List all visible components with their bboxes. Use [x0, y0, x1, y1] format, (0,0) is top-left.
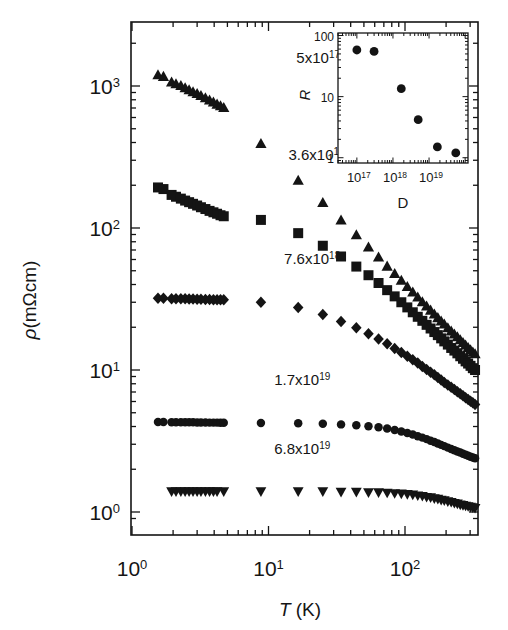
data-point	[374, 423, 382, 431]
y-tick-label-1: 101	[89, 359, 120, 382]
data-point	[293, 228, 303, 238]
data-series-5x10-17: 5x10173.6x10187.6x10181.7x10196.8x101910…	[152, 30, 480, 514]
y-tick-label-3: 103	[89, 75, 120, 98]
data-point	[364, 422, 372, 430]
inset-x-tick-label-2: 1019	[419, 170, 443, 185]
x-axis-title: T (K)5x10173.6x10187.6x10181.7x10196.8x1…	[152, 30, 480, 620]
data-point	[257, 419, 265, 427]
data-point	[317, 197, 328, 207]
data-point	[363, 488, 374, 498]
inset-y-tick-label-2: 100	[314, 30, 334, 44]
data-point	[293, 302, 304, 314]
axis-ticks: 100101102100101102103ρ(mΩcm)T (K)5x10173…	[19, 22, 481, 620]
x-tick-label-2: 102	[390, 557, 421, 580]
inset-x-tick-label-1: 1018	[383, 170, 407, 185]
data-point	[220, 419, 228, 427]
data-point	[351, 488, 362, 498]
data-point	[335, 214, 346, 224]
data-point	[363, 241, 374, 251]
inset-data-point	[352, 46, 361, 55]
data-point	[363, 270, 373, 280]
inset-data-point	[397, 84, 406, 93]
data-point	[294, 419, 302, 427]
series-annotation-3: 1.7x1019	[274, 371, 331, 388]
y-axis-title: ρ(mΩcm)T (K)5x10173.6x10187.6x10181.7x10…	[19, 30, 481, 620]
inset-data-point	[451, 148, 460, 157]
inset-data-point	[414, 115, 423, 124]
series-annotation-0: 5x1017	[296, 49, 340, 66]
inset-y-tick-label-0: 1	[327, 152, 334, 166]
inset-x-tick-label-0: 1017	[347, 170, 371, 185]
data-point	[317, 487, 328, 497]
data-point	[256, 487, 267, 497]
data-point	[351, 322, 362, 334]
data-point	[318, 309, 329, 321]
inset-data-point	[433, 143, 442, 152]
plot-frame: 100101102100101102103ρ(mΩcm)T (K)5x10173…	[19, 22, 481, 620]
x-tick-label-0: 100	[117, 557, 148, 580]
data-point	[471, 454, 479, 462]
y-axis-title-text: ρ(mΩcm)	[19, 261, 40, 341]
data-point	[336, 316, 347, 328]
data-point	[373, 333, 384, 345]
y-tick-label-2: 102	[89, 217, 120, 240]
data-point	[256, 296, 266, 308]
series-annotation-2: 7.6x1018	[284, 250, 341, 267]
data-point	[470, 365, 480, 375]
inset-x-axis-title-text: D	[398, 194, 409, 211]
data-point	[255, 138, 266, 148]
data-point	[159, 418, 167, 426]
data-point	[351, 229, 362, 239]
data-point	[351, 262, 361, 272]
y-tick-label-0: 100	[89, 501, 120, 524]
data-point	[383, 424, 391, 432]
data-point	[337, 420, 345, 428]
data-point	[256, 215, 266, 225]
inset-y-axis-title-text: R	[296, 89, 313, 100]
y-tick-labels: 100101102103ρ(mΩcm)T (K)5x10173.6x10187.…	[19, 30, 481, 620]
series-annotation-1: 3.6x1018	[288, 146, 345, 163]
data-point	[218, 487, 229, 497]
data-point	[319, 420, 327, 428]
resistivity-vs-temperature-chart: 100101102100101102103ρ(mΩcm)T (K)5x10173…	[0, 0, 508, 630]
inset-y-tick-label-1: 10	[321, 91, 335, 105]
data-point	[382, 261, 393, 271]
series-annotation-4: 6.8x1019	[274, 440, 331, 457]
data-point	[219, 211, 229, 221]
data-point	[374, 278, 384, 288]
data-point	[336, 488, 347, 498]
data-point	[373, 252, 384, 262]
data-point	[293, 487, 304, 497]
data-point	[293, 175, 304, 185]
x-tick-label-1: 101	[253, 557, 284, 580]
x-tick-labels: 100101102100101102103ρ(mΩcm)T (K)5x10173…	[19, 30, 481, 620]
inset-x-axis-title: D	[398, 194, 409, 211]
inset-data-point	[370, 47, 379, 56]
figure-panel: 100101102100101102103ρ(mΩcm)T (K)5x10173…	[0, 0, 508, 630]
data-point	[363, 328, 374, 340]
x-axis-title-text: T (K)	[279, 599, 321, 620]
data-point	[352, 421, 360, 429]
